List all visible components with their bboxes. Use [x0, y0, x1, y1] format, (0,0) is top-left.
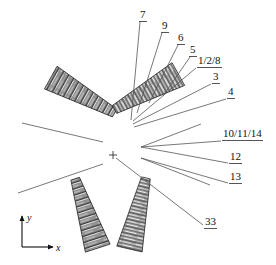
- wedge-upper-left: [44, 66, 120, 124]
- wedge-lower-right: [117, 175, 159, 252]
- callout-leaders-group: [116, 22, 228, 225]
- center-cross-icon: [109, 151, 117, 159]
- leader-4: [134, 99, 226, 127]
- callout-label-10-11-14: 10/11/14: [222, 128, 263, 141]
- axis-label-x: x: [56, 243, 60, 253]
- callout-label-7: 7: [139, 9, 147, 22]
- callout-label-1-2-8: 1/2/8: [197, 55, 222, 68]
- axis-label-y: y: [27, 213, 31, 223]
- callout-label-33: 33: [204, 216, 217, 229]
- callout-label-3: 3: [212, 71, 220, 84]
- plain-leaders-group: [18, 123, 210, 193]
- leader-10-11-14: [141, 141, 221, 147]
- plain-leader-lower-left: [18, 164, 103, 193]
- leader-12: [141, 147, 228, 163]
- leader-13: [141, 158, 228, 183]
- callout-label-12: 12: [229, 151, 242, 164]
- callout-label-13: 13: [229, 171, 242, 184]
- wedges-group: [44, 63, 184, 252]
- plain-leader-right-lower: [141, 158, 210, 185]
- callout-label-6: 6: [177, 32, 185, 45]
- wedge-upper-right: [108, 63, 184, 121]
- callout-label-9: 9: [161, 20, 169, 33]
- wedge-lower-left: [63, 175, 110, 252]
- callout-label-4: 4: [227, 86, 235, 99]
- callout-label-5: 5: [189, 44, 197, 57]
- plain-leader-upper-left: [22, 123, 103, 142]
